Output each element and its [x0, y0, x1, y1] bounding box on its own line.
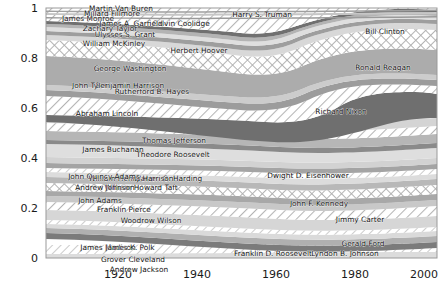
- band-label: John Adams: [77, 196, 122, 205]
- band-label: Jimmy Carter: [335, 215, 386, 224]
- band-label: Richard Nixon: [315, 107, 367, 116]
- band-label: Franklin D. Roosevelt: [234, 249, 312, 258]
- band-label: William McKinley: [83, 39, 146, 48]
- band-label: John Quincy Adams: [67, 172, 140, 181]
- x-tick-label: 1960: [262, 268, 290, 281]
- x-tick-label: 2000: [410, 268, 438, 281]
- band-label: Woodrow Wilson: [121, 216, 182, 225]
- band-label: James K. Polk: [104, 243, 155, 252]
- band-label: Lyndon B. Johnson: [311, 249, 379, 258]
- band-label: Harry S. Truman: [232, 10, 292, 19]
- band-label: John Tyler: [71, 81, 109, 90]
- y-tick-label: 0.2: [21, 202, 39, 215]
- band-label: Herbert Hoover: [170, 46, 228, 55]
- band-label: Theodore Roosevelt: [135, 150, 209, 159]
- band-label: John F. Kennedy: [289, 199, 349, 208]
- band-label: Franklin Pierce: [97, 205, 151, 214]
- band-label: Ronald Reagan: [355, 63, 411, 72]
- band-label: Andrew Jackson: [110, 265, 169, 274]
- y-tick-label: 1: [31, 2, 38, 15]
- streamgraph-figure: 1 0.8 0.6 0.4 0.2 0 1920 1940 1960 1980 …: [0, 0, 448, 292]
- band-label: Martin Van Buren: [89, 4, 153, 13]
- chart-root: 1 0.8 0.6 0.4 0.2 0 1920 1940 1960 1980 …: [0, 0, 448, 292]
- y-tick-label: 0.6: [21, 102, 39, 115]
- band-label: Andrew Johnson: [75, 183, 135, 192]
- band-label: Gerald Ford: [341, 239, 384, 248]
- band-label: George Washington: [94, 64, 167, 73]
- y-tick-label: 0: [31, 252, 38, 265]
- x-tick-label: 1940: [183, 268, 211, 281]
- band-label: Thomas Jefferson: [141, 136, 206, 145]
- band-label: Dwight D. Eisenhower: [267, 171, 349, 180]
- y-tick-label: 0.4: [21, 152, 39, 165]
- x-tick-label: 1980: [341, 268, 369, 281]
- streamgraph-svg: 1 0.8 0.6 0.4 0.2 0 1920 1940 1960 1980 …: [0, 0, 448, 292]
- band-label: Abraham Lincoln: [76, 109, 139, 118]
- band-label: Grover Cleveland: [101, 255, 165, 264]
- y-tick-label: 0.8: [21, 52, 39, 65]
- band-label: Bill Clinton: [365, 27, 405, 36]
- band-label: James Buchanan: [81, 145, 144, 154]
